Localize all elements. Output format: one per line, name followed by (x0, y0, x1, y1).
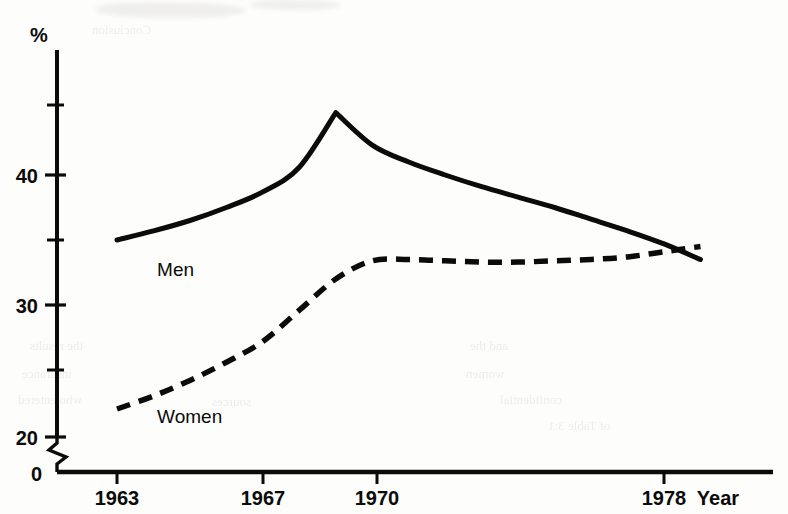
y-tick-label-20: 20 (16, 427, 38, 449)
y-tick-label-0: 0 (31, 463, 42, 485)
y-tick-label-30: 30 (16, 295, 38, 317)
y-axis-title: % (30, 24, 48, 46)
x-tick-label-1963: 1963 (95, 487, 140, 509)
x-tick-label-1967: 1967 (241, 487, 286, 509)
y-axis-break-symbol (49, 437, 66, 472)
line-chart-svg: 40 30 20 0 % 1963 1967 1970 1978 Year Me… (0, 0, 788, 514)
x-tick-label-1970: 1970 (355, 487, 400, 509)
series-label-men: Men (157, 259, 194, 280)
series-label-women: Women (157, 406, 222, 427)
series-line-men (117, 113, 700, 260)
y-tick-label-40: 40 (16, 165, 38, 187)
series-line-women (117, 247, 700, 410)
x-tick-label-1978: 1978 (642, 487, 687, 509)
chart-figure: Conclusionand thewomenconfidentialof Tab… (0, 0, 788, 514)
x-axis-title: Year (697, 487, 739, 509)
